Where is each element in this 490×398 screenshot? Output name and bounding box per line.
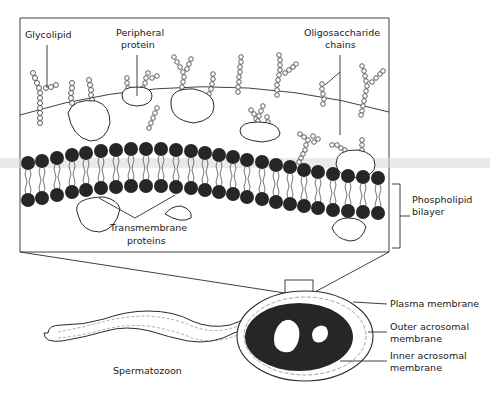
label-phospholipid-2: bilayer (412, 206, 445, 217)
label-transmembrane-2: proteins (127, 235, 166, 246)
label-peripheral-protein-2: protein (121, 39, 155, 50)
label-phospholipid-1: Phospholipid (412, 194, 472, 205)
transmembrane-protein-3 (165, 206, 191, 220)
label-plasma-membrane: Plasma membrane (390, 298, 479, 309)
spermatozoon-cell (44, 291, 373, 381)
label-inner-acrosomal-1: Inner acrosomal (390, 350, 467, 361)
label-glycolipid: Glycolipid (25, 29, 72, 40)
membrane-diagram: Glycolipid Peripheral protein Oligosacch… (0, 0, 490, 398)
label-inner-acrosomal-2: membrane (390, 362, 442, 373)
label-oligosaccharide-1: Oligosaccharide (304, 27, 380, 38)
transmembrane-protein-4 (332, 218, 366, 241)
transmembrane-protein-1 (68, 101, 110, 142)
phospholipid-bilayer (21, 142, 385, 220)
zoom-projection (20, 252, 389, 293)
label-spermatozoon: Spermatozoon (113, 365, 182, 376)
label-outer-acrosomal-1: Outer acrosomal (390, 321, 469, 332)
bold-protein (240, 122, 280, 142)
label-peripheral-protein-1: Peripheral (116, 27, 164, 38)
label-outer-acrosomal-2: membrane (390, 333, 442, 344)
label-oligosaccharide-2: chains (325, 39, 356, 50)
protein-2 (171, 89, 214, 123)
label-transmembrane-1: Transmembrane (109, 222, 187, 233)
